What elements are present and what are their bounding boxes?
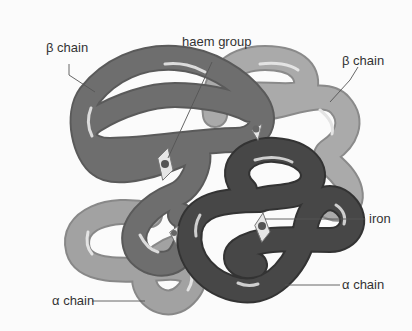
- label-alpha-chain-right: α chain: [342, 278, 384, 291]
- label-beta-chain-right: β chain: [342, 54, 384, 67]
- label-iron: iron: [369, 212, 391, 225]
- label-beta-chain-left: β chain: [46, 41, 88, 54]
- label-alpha-chain-left: α chain: [52, 294, 94, 307]
- label-haem-group: haem group: [182, 35, 251, 48]
- haemoglobin-diagram: β chain haem group β chain iron α chain …: [0, 0, 412, 331]
